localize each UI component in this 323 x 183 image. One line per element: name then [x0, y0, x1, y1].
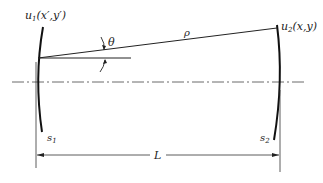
- label-theta: θ: [108, 36, 115, 49]
- theta-arrowhead-bottom: [103, 59, 107, 64]
- label-s2: s2: [260, 132, 270, 145]
- arrowhead-right: [272, 153, 279, 157]
- label-s1: s1: [47, 132, 57, 145]
- label-rho: ρ: [183, 27, 190, 38]
- aperture-s2-surface: [274, 25, 280, 140]
- aperture-diffraction-diagram: u1(x′,y′) u2(x,y) θ ρ s1 s2 L: [0, 0, 323, 183]
- label-L: L: [153, 149, 161, 162]
- ray-rho: [38, 28, 277, 58]
- label-u2: u2(x,y): [281, 20, 317, 34]
- label-u1: u1(x′,y′): [25, 9, 66, 23]
- aperture-s1-surface: [38, 27, 43, 132]
- arrowhead-left: [37, 153, 44, 157]
